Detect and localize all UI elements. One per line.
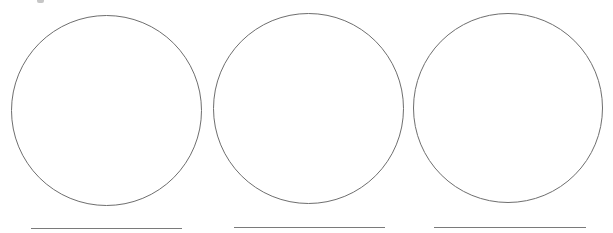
answer-line-3[interactable] bbox=[434, 227, 586, 228]
answer-line-1[interactable] bbox=[31, 228, 182, 229]
answer-line-2[interactable] bbox=[234, 227, 385, 228]
drawing-circle-1[interactable] bbox=[11, 15, 202, 206]
drawing-circle-3[interactable] bbox=[413, 13, 603, 203]
cropped-glyph-fragment bbox=[37, 0, 44, 3]
drawing-circle-2[interactable] bbox=[213, 13, 404, 204]
